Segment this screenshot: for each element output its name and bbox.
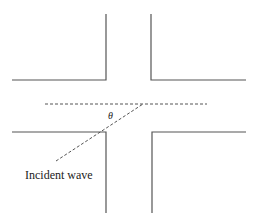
incident-wave-label: Incident wave — [25, 168, 93, 182]
angle-theta-label: θ — [108, 110, 113, 121]
crossroad-diagram: θ Incident wave — [0, 0, 259, 222]
wall-top-right — [151, 14, 246, 80]
wall-bottom-right — [152, 132, 246, 213]
wall-top-left — [12, 14, 106, 80]
